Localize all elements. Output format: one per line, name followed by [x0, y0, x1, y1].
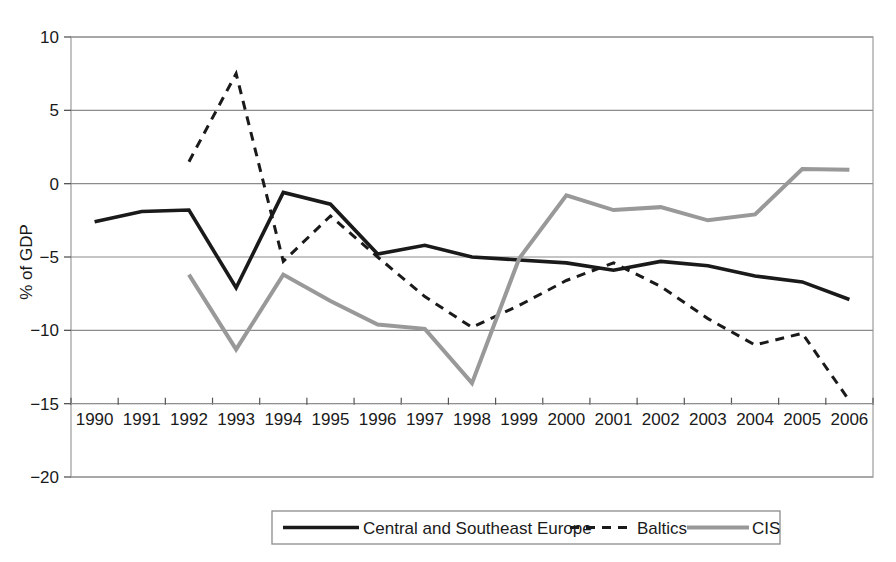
x-tick-label: 1992	[170, 410, 208, 429]
line-chart: 1050−5−10−15−20 199019911992199319941995…	[0, 0, 896, 562]
x-tick-label: 1994	[264, 410, 302, 429]
x-tick-label: 2003	[689, 410, 727, 429]
x-tick-label: 1995	[312, 410, 350, 429]
x-tick-label: 1990	[76, 410, 114, 429]
y-tick-label: −20	[30, 468, 59, 487]
x-tick-label: 1993	[217, 410, 255, 429]
y-tick-label: −10	[30, 321, 59, 340]
y-tick-label: −15	[30, 395, 59, 414]
x-tick-label: 1996	[359, 410, 397, 429]
x-tick-label: 2000	[547, 410, 585, 429]
x-tick-label: 1999	[500, 410, 538, 429]
x-tick-label: 2005	[783, 410, 821, 429]
y-tick-label: 0	[50, 175, 59, 194]
y-tick-label: −5	[40, 248, 59, 267]
x-tick-label: 1997	[406, 410, 444, 429]
chart-legend: Central and Southeast EuropeBalticsCIS	[272, 511, 780, 544]
legend-label: Baltics	[637, 519, 687, 538]
legend-label: CIS	[752, 519, 780, 538]
y-axis-title: % of GDP	[17, 224, 36, 300]
x-tick-label: 2004	[736, 410, 774, 429]
x-tick-label: 1998	[453, 410, 491, 429]
x-tick-label: 2001	[595, 410, 633, 429]
x-tick-label: 2002	[642, 410, 680, 429]
y-tick-label: 10	[40, 28, 59, 47]
x-tick-label: 2006	[830, 410, 868, 429]
y-tick-label: 5	[50, 101, 59, 120]
legend-label: Central and Southeast Europe	[363, 519, 592, 538]
x-tick-label: 1991	[123, 410, 161, 429]
chart-container: 1050−5−10−15−20 199019911992199319941995…	[0, 0, 896, 562]
